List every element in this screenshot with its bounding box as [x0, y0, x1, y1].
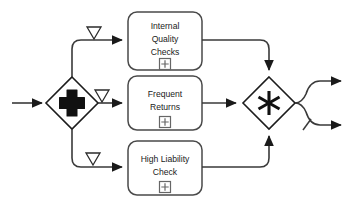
- merge-flow-top: [202, 40, 269, 70]
- task-label-line: Frequent: [148, 89, 183, 99]
- task-label-line: Internal: [151, 21, 180, 31]
- bpmn-diagram: Internal Quality Checks Frequent Returns…: [0, 0, 355, 207]
- task-label-line: Checks: [151, 47, 180, 57]
- task-label-line: High Liability: [141, 154, 190, 164]
- task-frequent-returns[interactable]: Frequent Returns: [128, 76, 202, 130]
- subprocess-plus-icon: [160, 117, 171, 128]
- parallel-gateway-split[interactable]: [46, 77, 98, 129]
- outgoing-sequence-flow-lower: [295, 103, 341, 130]
- task-label-line: Check: [153, 167, 178, 177]
- complex-gateway-merge[interactable]: [243, 77, 295, 129]
- default-flow-slash-icon: [303, 119, 311, 130]
- bpmn-canvas: Internal Quality Checks Frequent Returns…: [0, 0, 355, 207]
- outgoing-sequence-flow-upper: [295, 81, 341, 103]
- branch-marker-middle: [95, 90, 109, 102]
- branch-marker-top: [87, 27, 101, 39]
- task-internal-quality-checks[interactable]: Internal Quality Checks: [128, 12, 202, 70]
- subprocess-plus-icon: [160, 59, 171, 70]
- subprocess-plus-icon: [160, 182, 171, 193]
- branch-marker-bottom: [86, 153, 100, 165]
- task-high-liability-check[interactable]: High Liability Check: [128, 141, 202, 195]
- branch-flow-bottom: [72, 129, 122, 167]
- task-label-line: Quality: [152, 34, 179, 44]
- branch-flow-top: [72, 40, 122, 77]
- task-label-line: Returns: [150, 102, 180, 112]
- merge-flow-bottom: [202, 136, 269, 167]
